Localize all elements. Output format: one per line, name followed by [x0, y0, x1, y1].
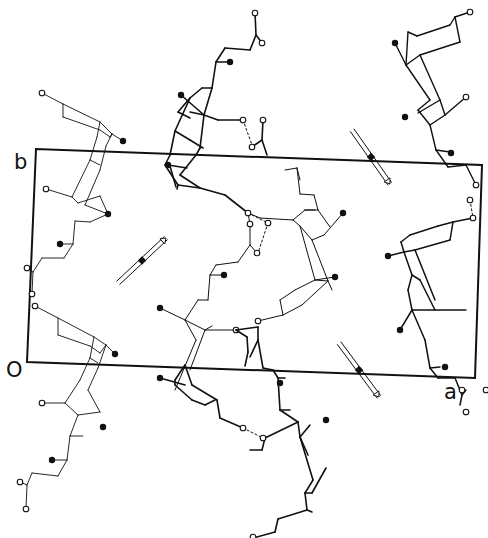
open-atom-icon	[265, 220, 271, 226]
covalent-bond	[208, 275, 210, 300]
filled-atom-icon	[332, 274, 338, 280]
filled-atom-icon	[157, 375, 163, 381]
open-atom-icon	[250, 534, 256, 538]
open-atom-icon	[259, 40, 265, 46]
covalent-bond	[236, 327, 258, 330]
covalent-bond	[65, 380, 80, 403]
filled-atom-icon	[120, 138, 126, 144]
covalent-bond	[295, 280, 315, 290]
twofold-screw-arrow-top-right	[350, 129, 392, 186]
covalent-bond	[430, 115, 445, 125]
covalent-bond	[300, 437, 313, 480]
covalent-bond	[72, 160, 90, 197]
mol-center-upper	[165, 10, 267, 213]
covalent-bond	[401, 242, 404, 252]
open-atom-icon	[17, 479, 23, 485]
open-atom-icon	[23, 506, 29, 512]
covalent-bond	[297, 168, 300, 194]
covalent-bond	[180, 155, 196, 175]
twofold-screw-arrow-bottom-right	[337, 342, 381, 399]
covalent-bond	[225, 195, 248, 213]
covalent-bond	[318, 210, 330, 227]
filled-atom-icon	[385, 253, 391, 259]
covalent-bond	[90, 358, 98, 363]
covalent-bond	[175, 385, 192, 400]
covalent-bond	[217, 400, 220, 418]
covalent-bond	[64, 244, 73, 258]
axis-label-b: b	[14, 152, 27, 173]
covalent-bond	[238, 245, 250, 262]
covalent-bond	[258, 315, 283, 321]
covalent-bond	[417, 25, 450, 36]
covalent-bond	[293, 210, 305, 220]
covalent-bond	[300, 194, 314, 195]
covalent-bond	[300, 425, 310, 437]
covalent-bond	[260, 218, 293, 220]
filled-atom-icon	[100, 424, 106, 430]
filled-atom-icon	[49, 457, 55, 463]
covalent-bond	[220, 418, 243, 428]
mol-left-lower	[17, 303, 118, 512]
covalent-bond	[404, 252, 412, 275]
covalent-bond	[72, 197, 78, 203]
packing-diagram-canvas	[0, 0, 488, 538]
covalent-bond	[265, 422, 298, 438]
covalent-bond	[420, 55, 440, 100]
covalent-bond	[42, 93, 63, 104]
filled-atom-icon	[221, 272, 227, 278]
covalent-bond	[250, 340, 258, 357]
covalent-bond	[445, 97, 466, 115]
covalent-bond	[438, 222, 453, 226]
open-atom-icon	[39, 400, 45, 406]
covalent-bond	[455, 17, 460, 42]
covalent-bond	[408, 32, 417, 36]
open-atom-icon	[255, 318, 261, 324]
filled-atom-icon	[402, 114, 408, 120]
covalent-bond	[307, 510, 312, 512]
covalent-bond	[415, 250, 435, 300]
open-atom-icon	[473, 182, 479, 188]
covalent-bond	[90, 337, 94, 358]
covalent-bond	[73, 221, 75, 244]
axis-label-origin: O	[6, 360, 23, 381]
covalent-bond	[65, 403, 78, 415]
covalent-bond	[175, 131, 190, 140]
covalent-bond	[225, 48, 250, 50]
covalent-bond	[404, 250, 415, 252]
filled-atom-icon	[105, 211, 111, 217]
screw-axis-marker-icon	[138, 256, 146, 264]
filled-atom-icon	[157, 305, 163, 311]
covalent-bond	[406, 55, 420, 65]
covalent-bond	[250, 35, 256, 50]
covalent-bond	[170, 166, 176, 187]
covalent-bond	[78, 412, 100, 415]
mol-center-lower	[157, 327, 329, 538]
filled-atom-icon	[178, 92, 184, 98]
covalent-bond	[58, 335, 90, 346]
covalent-bond	[94, 337, 106, 345]
covalent-bond	[33, 258, 42, 272]
open-atom-icon	[24, 265, 30, 271]
covalent-bond	[412, 275, 420, 280]
hydrogen-bond	[243, 428, 263, 438]
covalent-bond	[305, 480, 313, 493]
hydrogen-bond	[243, 120, 252, 145]
mol-center-middle	[157, 168, 346, 390]
covalent-bond	[80, 358, 90, 380]
covalent-bond	[448, 165, 466, 167]
covalent-bond	[450, 222, 453, 240]
covalent-bond	[247, 337, 248, 352]
covalent-bond	[280, 300, 283, 315]
covalent-bond	[298, 422, 300, 437]
covalent-bond	[160, 308, 185, 320]
open-atom-icon	[240, 117, 246, 123]
covalent-bond	[305, 493, 307, 510]
axis-label-a: a	[444, 382, 457, 403]
filled-atom-icon	[227, 59, 233, 65]
covalent-bond	[436, 150, 450, 152]
open-atom-icon	[483, 387, 488, 393]
covalent-bond	[175, 98, 190, 131]
covalent-bond	[200, 115, 204, 148]
filled-atom-icon	[112, 351, 118, 357]
covalent-bond	[430, 367, 440, 368]
